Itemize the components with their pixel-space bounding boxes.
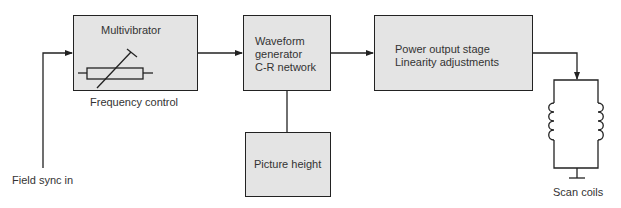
scan-coils-label: Scan coils — [553, 186, 603, 199]
left-coil-icon — [549, 103, 554, 140]
power-output-block: Power output stage Linearity adjustments — [374, 15, 533, 91]
picture-height-label: Picture height — [254, 158, 321, 171]
power-to-coils-wire — [532, 53, 577, 79]
waveform-generator-block: Waveform generator C-R network — [243, 15, 331, 91]
picture-height-block: Picture height — [245, 132, 331, 197]
right-coil-icon — [598, 103, 603, 140]
frequency-control-caption: Frequency control — [90, 96, 178, 109]
sync-input-wire — [43, 53, 72, 168]
multivibrator-block: Multivibrator — [73, 15, 198, 91]
waveform-line-2: generator — [255, 48, 302, 61]
waveform-line-3: C-R network — [255, 61, 316, 74]
power-line-2: Linearity adjustments — [395, 56, 499, 69]
power-line-1: Power output stage — [395, 43, 490, 56]
variable-resistor-icon — [73, 15, 198, 91]
field-sync-in-label: Field sync in — [12, 174, 73, 187]
waveform-line-1: Waveform — [255, 35, 305, 48]
